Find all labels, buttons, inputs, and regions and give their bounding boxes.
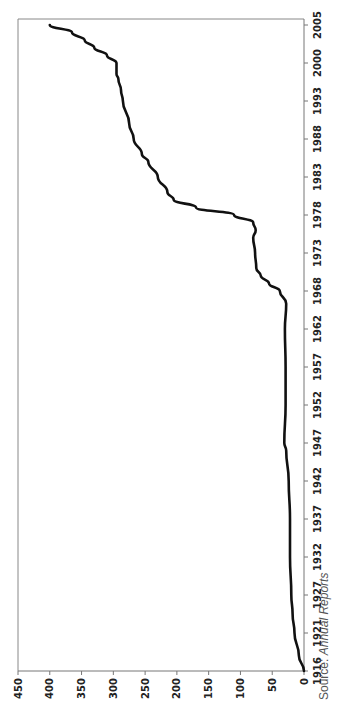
value-tick-label: 50 xyxy=(267,678,278,692)
value-tick-label: 100 xyxy=(235,678,246,699)
value-tick-label: 350 xyxy=(76,678,87,699)
year-tick-label: 1973 xyxy=(312,239,323,267)
year-tick-label: 1937 xyxy=(312,505,323,533)
year-tick-label: 1978 xyxy=(312,201,323,229)
year-tick-label: 1932 xyxy=(312,543,323,571)
year-tick-label: 1968 xyxy=(312,277,323,305)
value-tick-label: 200 xyxy=(171,678,182,699)
year-tick-label: 1962 xyxy=(312,315,323,343)
value-tick-label: 0 xyxy=(299,678,310,685)
year-tick-label: 2005 xyxy=(312,11,323,39)
value-tick-label: 300 xyxy=(108,678,119,699)
year-tick-label: 1988 xyxy=(312,125,323,153)
source-name: Annual Reports xyxy=(317,573,331,657)
value-axis-ticks: 050100150200250300350400450 xyxy=(13,671,310,699)
source-note: Source: Annual Reports xyxy=(317,573,331,700)
value-tick-label: 250 xyxy=(140,678,151,699)
series-line xyxy=(50,25,304,671)
plot-area xyxy=(18,19,304,671)
year-tick-label: 1947 xyxy=(312,429,323,457)
year-tick-label: 1952 xyxy=(312,391,323,419)
year-tick-label: 1942 xyxy=(312,467,323,495)
value-tick-label: 450 xyxy=(13,678,24,699)
year-tick-label: 2000 xyxy=(312,49,323,77)
value-tick-label: 150 xyxy=(203,678,214,699)
line-chart: 050100150200250300350400450 191619211927… xyxy=(0,0,347,711)
source-prefix: Source: xyxy=(317,655,331,700)
year-tick-label: 1957 xyxy=(312,353,323,381)
value-tick-label: 400 xyxy=(44,678,55,699)
year-tick-label: 1993 xyxy=(312,87,323,115)
year-tick-label: 1983 xyxy=(312,163,323,191)
